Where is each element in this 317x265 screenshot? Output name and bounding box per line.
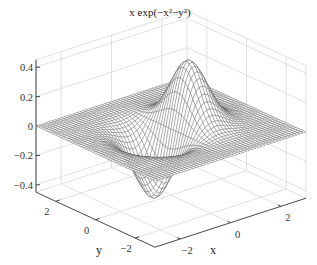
z-tick-label: 0.2: [20, 92, 33, 103]
x-axis-label: x: [210, 243, 216, 257]
y-tick: [135, 237, 139, 238]
x-tick-label: −2: [182, 245, 193, 256]
surface-mesh: [36, 60, 306, 198]
z-tick-label: −0.2: [14, 150, 33, 161]
z-tick-label: 0.4: [20, 62, 34, 73]
y-axis-label: y: [96, 243, 102, 257]
chart-title: x exp(−x²−y²): [129, 6, 191, 19]
y-tick-label: 2: [44, 206, 49, 217]
y-tick-label: −2: [121, 243, 132, 254]
y-tick-label: 0: [84, 225, 89, 236]
z-tick-label: −0.4: [14, 180, 34, 191]
z-tick-label: 0: [28, 121, 33, 132]
grid-line: [96, 171, 247, 220]
x-tick-label: 2: [285, 212, 290, 223]
surface-plot: 0.40.20−0.2−0.420−2−202 x exp(−x²−y²) x …: [0, 0, 317, 265]
y-tick: [56, 200, 60, 201]
x-tick-label: 0: [235, 229, 240, 240]
